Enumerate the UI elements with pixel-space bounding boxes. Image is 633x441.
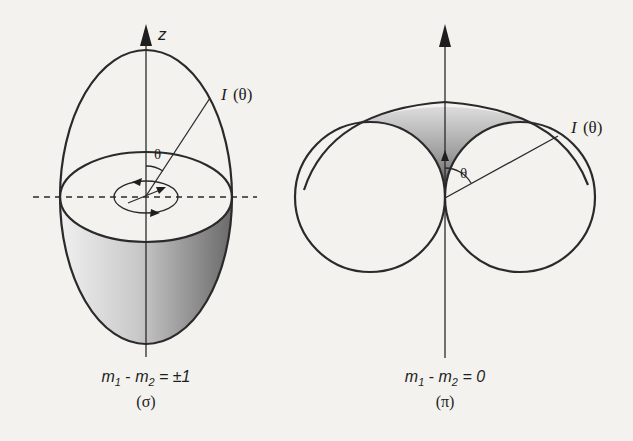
sigma-theta-label: θ — [154, 146, 161, 162]
pi-axis-arrowhead-icon — [439, 24, 451, 47]
sigma-circulation-arrow-top-icon — [132, 178, 142, 186]
pi-theta-label: θ — [460, 165, 467, 181]
pi-panel: I (θ) θ m1 - m2 = 0 (π) — [295, 24, 602, 411]
pi-selection-rule-caption: m1 - m2 = 0 — [405, 368, 485, 388]
radiation-pattern-figure: z I (θ) θ m1 - m2 = ±1 (σ) I — [0, 0, 633, 441]
sigma-transition-label: (σ) — [136, 393, 155, 411]
pi-transition-label: (π) — [436, 393, 455, 411]
pi-right-lobe — [445, 122, 595, 272]
pi-left-lobe — [295, 122, 445, 272]
sigma-circulation-arrow-bottom-icon — [150, 209, 160, 217]
sigma-selection-rule-caption: m1 - m2 = ±1 — [101, 368, 190, 388]
sigma-intensity-label: I (θ) — [220, 85, 252, 104]
sigma-dipole-arrowhead-icon — [156, 187, 166, 194]
sigma-panel: z I (θ) θ m1 - m2 = ±1 (σ) — [33, 24, 257, 411]
sigma-z-axis-arrowhead-icon — [140, 24, 152, 46]
sigma-theta-arc — [146, 166, 163, 171]
pi-intensity-label: I (θ) — [570, 118, 602, 137]
sigma-z-axis-label: z — [157, 25, 167, 44]
